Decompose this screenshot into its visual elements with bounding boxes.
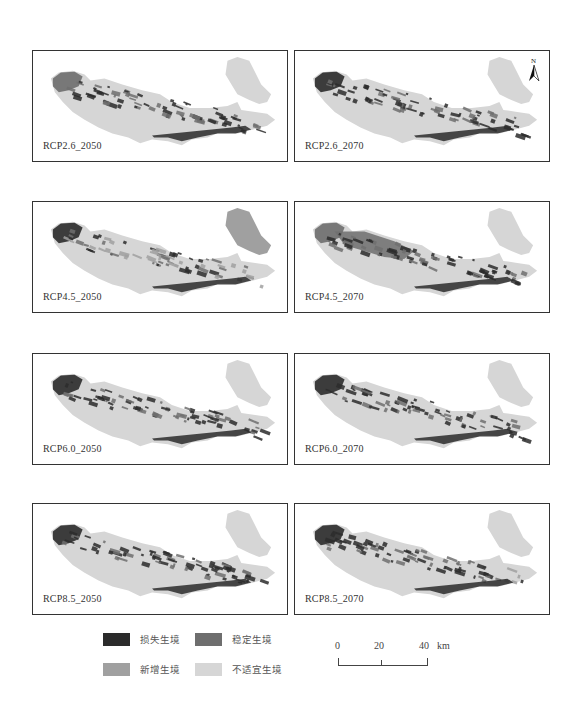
map-panel-rcp45_2070: RCP4.5_2070	[294, 201, 550, 313]
map-panel-rcp60_2050: RCP6.0_2050	[32, 353, 288, 465]
panel-label: RCP6.0_2070	[305, 443, 364, 454]
region-north-lobe	[487, 510, 533, 557]
region-north-lobe	[487, 208, 533, 255]
panel-label: RCP4.5_2070	[305, 291, 364, 302]
map-panel-rcp26_2070: RCP2.6_2070N	[294, 50, 550, 162]
legend-item-stable-habitat: 稳定生境	[195, 632, 272, 646]
map-panel-rcp85_2050: RCP8.5_2050	[32, 503, 288, 615]
north-arrow-icon: N	[527, 55, 541, 83]
legend-swatch-new	[103, 663, 130, 676]
north-label: N	[531, 57, 536, 65]
panel-label: RCP8.5_2050	[43, 593, 102, 604]
legend-item-unsuitable-habitat: 不适宜生境	[195, 662, 282, 676]
scale-bar: 0 20 40 km	[330, 640, 470, 670]
map-panel-rcp60_2070: RCP6.0_2070	[294, 353, 550, 465]
panel-label: RCP2.6_2070	[305, 140, 364, 151]
panel-label: RCP8.5_2070	[305, 593, 364, 604]
map-panel-rcp26_2050: RCP2.6_2050	[32, 50, 288, 162]
legend-item-lost-habitat: 损失生境	[103, 632, 180, 646]
panel-label: RCP4.5_2050	[43, 291, 102, 302]
map-panel-rcp45_2050: RCP4.5_2050	[32, 201, 288, 313]
region-north-lobe	[225, 510, 271, 557]
scale-bar-line	[338, 658, 428, 666]
legend: 损失生境 稳定生境 新增生境 不适宜生境	[103, 632, 303, 682]
panel-label: RCP6.0_2050	[43, 443, 102, 454]
legend-label-lost: 损失生境	[140, 632, 180, 646]
scale-label-0: 0	[335, 640, 340, 651]
map-panel-rcp85_2070: RCP8.5_2070	[294, 503, 550, 615]
scale-tick-mid	[381, 660, 382, 665]
legend-swatch-unsuitable	[195, 663, 222, 676]
region-north-lobe	[225, 360, 271, 407]
region-north-lobe	[487, 360, 533, 407]
scale-unit: km	[437, 640, 450, 651]
legend-item-new-habitat: 新增生境	[103, 662, 180, 676]
legend-label-new: 新增生境	[140, 662, 180, 676]
panel-label: RCP2.6_2050	[43, 140, 102, 151]
legend-swatch-stable	[195, 633, 222, 646]
legend-label-unsuitable: 不适宜生境	[232, 662, 282, 676]
legend-swatch-lost	[103, 633, 130, 646]
legend-label-stable: 稳定生境	[232, 632, 272, 646]
scale-label-40: 40	[419, 640, 429, 651]
scale-label-20: 20	[374, 640, 384, 651]
region-north-lobe	[225, 208, 271, 255]
region-north-lobe	[225, 57, 271, 104]
